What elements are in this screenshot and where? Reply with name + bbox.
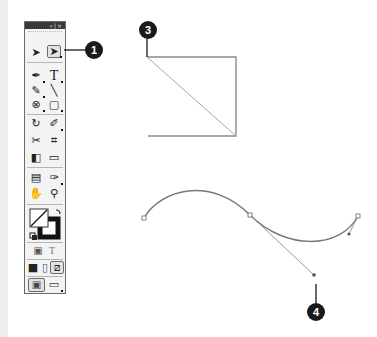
anchor-point-end[interactable] <box>356 214 360 218</box>
callout-3: 3 <box>139 21 157 39</box>
direction-point[interactable] <box>312 273 316 277</box>
callout-4: 4 <box>307 303 325 321</box>
anchor-point-middle[interactable] <box>248 213 252 217</box>
end-handle-line[interactable] <box>349 216 358 234</box>
anchor-point-start[interactable] <box>142 216 146 220</box>
artboard-canvas[interactable] <box>0 0 377 337</box>
diagonal-path[interactable] <box>147 57 236 136</box>
callout-1: 1 <box>85 41 103 59</box>
end-direction-point[interactable] <box>347 232 350 235</box>
direction-handle-line[interactable] <box>250 215 314 275</box>
